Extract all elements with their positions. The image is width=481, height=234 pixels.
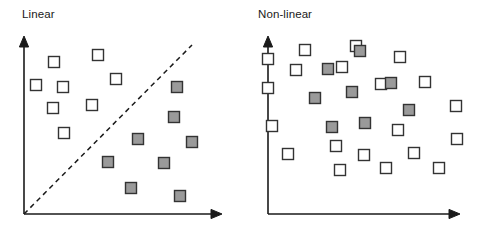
- marker-filled-square: [103, 157, 114, 168]
- y-axis-nonlinear-arrowhead: [263, 36, 272, 47]
- plot-nonlinear: [240, 0, 481, 234]
- marker-open-square: [337, 62, 348, 73]
- marker-filled-square: [187, 137, 198, 148]
- y-axis-linear: [19, 36, 28, 214]
- marker-open-square: [111, 74, 122, 85]
- marker-filled-square: [133, 134, 144, 145]
- marker-filled-square: [175, 191, 186, 202]
- marker-open-square: [263, 54, 274, 65]
- marker-open-square: [395, 52, 406, 63]
- marker-open-square: [267, 121, 278, 132]
- marker-open-square: [393, 125, 404, 136]
- marker-open-square: [263, 83, 274, 94]
- marker-open-square: [87, 100, 98, 111]
- marker-open-square: [331, 141, 342, 152]
- marker-open-square: [48, 103, 59, 114]
- marker-open-square: [335, 165, 346, 176]
- marker-filled-square: [327, 122, 338, 133]
- marker-open-square: [452, 134, 463, 145]
- x-axis-nonlinear-arrowhead: [449, 209, 460, 218]
- marker-filled-square: [347, 87, 358, 98]
- x-axis-linear-arrowhead: [211, 209, 222, 218]
- marker-open-square: [420, 77, 431, 88]
- svm-linear-vs-nonlinear-diagram: Linear Non-linear: [0, 0, 481, 234]
- x-axis-linear: [24, 209, 222, 218]
- x-axis-nonlinear: [268, 209, 460, 218]
- marker-filled-square: [386, 78, 397, 89]
- marker-filled-square: [169, 112, 180, 123]
- marker-open-square: [58, 82, 69, 93]
- marker-open-square: [283, 149, 294, 160]
- marker-open-square: [49, 57, 60, 68]
- marker-filled-square: [323, 64, 334, 75]
- marker-filled-square: [355, 46, 366, 57]
- y-axis-linear-arrowhead: [19, 36, 28, 47]
- marker-open-square: [381, 163, 392, 174]
- marker-filled-square: [159, 158, 170, 169]
- plot-linear: [0, 0, 240, 234]
- marker-filled-square: [310, 93, 321, 104]
- marker-open-square: [434, 163, 445, 174]
- marker-open-square: [31, 80, 42, 91]
- marker-open-square: [409, 148, 420, 159]
- marker-open-square: [291, 65, 302, 76]
- panel-nonlinear: Non-linear: [240, 0, 481, 234]
- marker-open-square: [93, 50, 104, 61]
- marker-open-square: [451, 101, 462, 112]
- marker-filled-square: [126, 183, 137, 194]
- marker-filled-square: [172, 82, 183, 93]
- marker-filled-square: [404, 105, 415, 116]
- linear-decision-boundary: [24, 45, 192, 214]
- panel-linear: Linear: [0, 0, 240, 234]
- marker-open-square: [59, 128, 70, 139]
- marker-open-square: [300, 45, 311, 56]
- marker-filled-square: [360, 118, 371, 129]
- marker-open-square: [359, 150, 370, 161]
